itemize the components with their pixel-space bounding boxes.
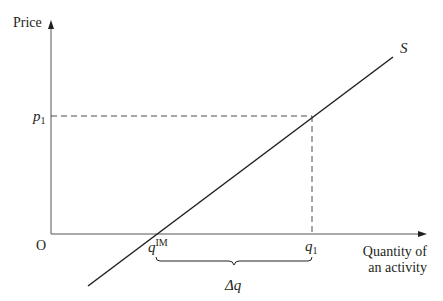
x-axis-label-line1: Quantity of — [363, 244, 427, 259]
supply-curve — [88, 57, 393, 286]
p1-label: p1 — [32, 108, 46, 126]
x-axis-arrow-icon — [418, 231, 427, 237]
y-axis-label: Price — [13, 15, 42, 30]
origin-label: O — [36, 238, 46, 253]
delta-q-label: Δq — [224, 277, 242, 293]
q1-label: q1 — [305, 238, 318, 256]
supply-diagram: Price p1 O qIM q1 Quantity of an activit… — [0, 0, 443, 301]
y-axis-arrow-icon — [48, 20, 54, 29]
supply-curve-label: S — [400, 40, 408, 56]
qim-label: qIM — [148, 237, 168, 255]
delta-q-brace — [156, 257, 312, 265]
x-axis-label-line2: an activity — [368, 260, 427, 275]
